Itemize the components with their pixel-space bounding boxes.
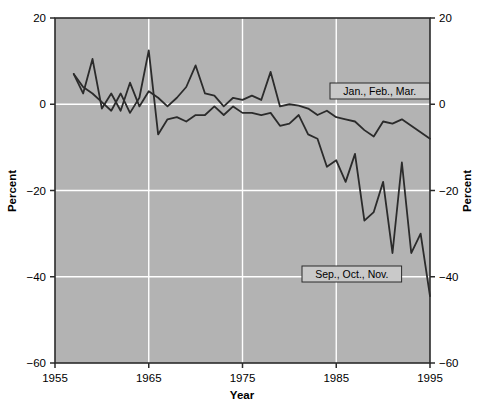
y-tick-label-right: −40 bbox=[439, 271, 459, 283]
y-tick-label-left: 0 bbox=[40, 98, 46, 110]
y-tick-label-right: −60 bbox=[439, 357, 459, 369]
y-tick-label-right: 20 bbox=[439, 12, 452, 24]
x-tick-label: 1965 bbox=[136, 372, 162, 384]
label-box-text: Jan., Feb., Mar. bbox=[343, 85, 416, 97]
label-box-text: Sep., Oct., Nov. bbox=[315, 268, 388, 280]
series-label-box: Jan., Feb., Mar. bbox=[330, 83, 430, 99]
line-chart: 202000−20−20−40−40−60−601955196519751985… bbox=[0, 0, 485, 408]
y-tick-label-left: −20 bbox=[26, 185, 46, 197]
y-tick-label-right: 0 bbox=[439, 98, 445, 110]
y-axis-title-right: Percent bbox=[461, 170, 473, 212]
x-tick-label: 1955 bbox=[42, 372, 68, 384]
series-label-box: Sep., Oct., Nov. bbox=[302, 266, 402, 282]
x-axis-title: Year bbox=[230, 389, 255, 401]
chart-figure: 202000−20−20−40−40−60−601955196519751985… bbox=[0, 0, 485, 408]
y-tick-label-left: −40 bbox=[26, 271, 46, 283]
x-tick-label: 1995 bbox=[417, 372, 443, 384]
y-tick-label-left: −60 bbox=[26, 357, 46, 369]
y-tick-label-right: −20 bbox=[439, 185, 459, 197]
x-tick-label: 1985 bbox=[323, 372, 349, 384]
x-tick-label: 1975 bbox=[230, 372, 256, 384]
y-tick-label-left: 20 bbox=[33, 12, 46, 24]
y-axis-title-left: Percent bbox=[6, 170, 18, 212]
